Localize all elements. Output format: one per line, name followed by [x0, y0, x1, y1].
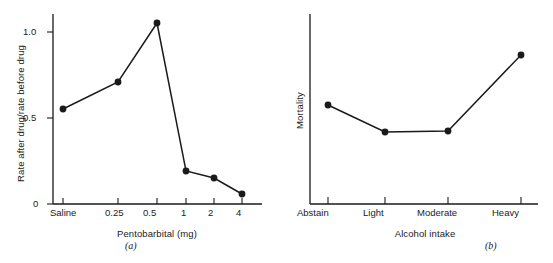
panel-b: Mortality Alcohol intake Abstain Light M…: [280, 0, 553, 263]
x-tick-label-a: 0.25: [105, 207, 124, 218]
data-point-a: [183, 168, 190, 175]
x-axis-label-b: Alcohol intake: [310, 228, 540, 239]
x-tick-label-b: Moderate: [417, 207, 457, 218]
data-point-b: [445, 128, 452, 135]
y-tick-label-a: 0.5: [23, 112, 36, 123]
x-tick-label-a: 1: [181, 207, 186, 218]
data-point-a: [211, 175, 218, 182]
data-line-b: [328, 55, 521, 132]
x-tick-label-b: Abstain: [297, 207, 329, 218]
x-tick-label-a: 4: [236, 207, 241, 218]
panel-label-a: (a): [125, 240, 137, 251]
x-tick-label-b: Light: [363, 207, 384, 218]
x-axis-label-a: Pentobarbital (mg): [62, 228, 252, 239]
data-point-a: [115, 79, 122, 86]
panel-b-plot: [280, 0, 553, 263]
data-point-a: [60, 106, 67, 113]
data-point-b: [518, 52, 525, 59]
x-tick-label-a: Saline: [50, 207, 76, 218]
y-tick-label-a: 0: [33, 198, 38, 209]
panel-a: Rate after drug/rate before drug Pentoba…: [0, 0, 280, 263]
y-tick-label-a: 1.0: [23, 26, 36, 37]
x-tick-label-a: 0.5: [143, 207, 156, 218]
data-point-a: [154, 20, 161, 27]
data-line-a: [63, 23, 242, 194]
y-axis-label-b: Mortality: [294, 56, 305, 166]
data-point-b: [325, 102, 332, 109]
panel-a-plot: [0, 0, 280, 263]
figure-two-panel-line-charts: Rate after drug/rate before drug Pentoba…: [0, 0, 553, 263]
x-tick-label-b: Heavy: [492, 207, 519, 218]
x-tick-label-a: 2: [208, 207, 213, 218]
data-point-a: [239, 191, 246, 198]
data-point-b: [382, 129, 389, 136]
panel-label-b: (b): [485, 240, 497, 251]
